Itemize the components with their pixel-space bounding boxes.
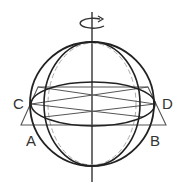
sphere-diagram: C D A B (0, 0, 182, 190)
label-a: A (26, 132, 36, 149)
label-c: C (13, 95, 24, 112)
equatorial-plane (21, 87, 166, 125)
label-d: D (162, 95, 173, 112)
diagonal-line (44, 104, 155, 117)
diagonal-line (31, 104, 143, 117)
label-b: B (150, 132, 160, 149)
diagonal-line (31, 87, 148, 104)
diagonal-line (38, 87, 155, 104)
